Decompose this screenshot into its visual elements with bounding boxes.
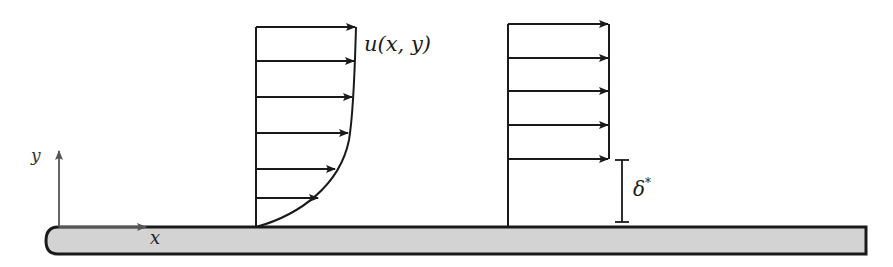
velocity-profile-displaced: [508, 24, 609, 227]
displacement-thickness-bracket: [615, 160, 629, 222]
x-axis-label: x: [150, 229, 160, 247]
boundary-layer-diagram: [0, 0, 893, 267]
flat-plate: [46, 227, 866, 254]
y-axis-label: y: [31, 147, 41, 164]
delta-symbol: δ: [633, 177, 645, 201]
velocity-profile-boundary-layer: [256, 27, 356, 227]
coordinate-axes: [59, 151, 146, 227]
velocity-profile-label: u(x, y): [364, 34, 431, 55]
delta-star: *: [645, 176, 651, 190]
displacement-thickness-label: δ*: [633, 177, 651, 199]
